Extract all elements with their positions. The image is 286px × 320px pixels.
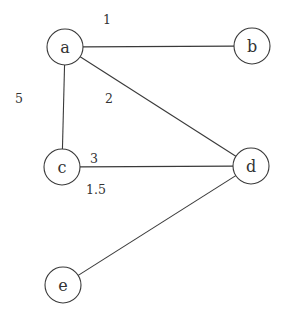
node-d: d: [233, 148, 269, 184]
node-a: a: [47, 29, 83, 65]
edge-label-a-d: 2: [105, 91, 113, 106]
edge-c-d: [80, 166, 233, 167]
graph-svg: a b c d e 1 5 2 3 1.5: [0, 0, 286, 320]
node-d-label: d: [246, 157, 256, 176]
edge-label-c-d-upper: 3: [90, 151, 98, 166]
edge-a-c: [62, 65, 64, 149]
nodes-group: a b c d e: [44, 28, 270, 303]
edge-label-a-b: 1: [103, 12, 111, 27]
edge-a-b: [83, 46, 234, 47]
node-b-label: b: [247, 37, 257, 56]
node-e: e: [45, 267, 81, 303]
edges-group: [62, 46, 235, 275]
node-b: b: [234, 28, 270, 64]
edge-label-a-c: 5: [15, 91, 23, 106]
node-a-label: a: [60, 38, 70, 57]
edge-a-d: [80, 57, 236, 157]
graph-diagram: a b c d e 1 5 2 3 1.5: [0, 0, 286, 320]
node-c-label: c: [58, 158, 67, 177]
node-c: c: [44, 149, 80, 185]
node-e-label: e: [58, 276, 67, 295]
edge-label-c-d-lower: 1.5: [86, 182, 106, 197]
